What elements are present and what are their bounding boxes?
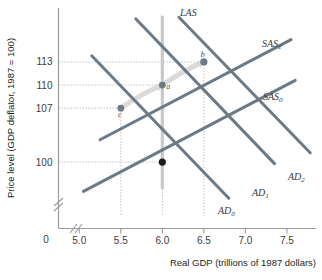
y-tick-label-113: 113: [37, 56, 53, 67]
x-tick-label-5.5: 5.5: [114, 235, 128, 246]
curve-label-subscript: 0: [231, 210, 235, 218]
x-tick-label-6.5: 6.5: [197, 235, 211, 246]
marker-initial-equilibrium: [159, 158, 166, 165]
curve-label-subscript: 2: [301, 176, 305, 184]
curve-SAS1: [100, 40, 291, 140]
y-tick-group: 100107110113: [36, 56, 53, 167]
x-tick-label-7.0: 7.0: [238, 235, 252, 246]
x-tick-label-7.5: 7.5: [280, 235, 294, 246]
y-tick-label-110: 110: [37, 80, 53, 91]
as-ad-chart-figure: 5.05.56.06.57.07.5 100107110113 cab LASS…: [0, 0, 322, 280]
curve-label-AD0: AD0: [217, 205, 235, 218]
curve-label-LAS: LAS: [179, 7, 197, 18]
curve-label-subscript: 1: [278, 43, 282, 51]
x-tick-label-5.0: 5.0: [72, 235, 86, 246]
curve-label-AD2: AD2: [287, 171, 305, 184]
marker-label-point-a: a: [166, 82, 170, 91]
x-axis-title: Real GDP (trillions of 1987 dollars): [170, 257, 316, 268]
curve-label-AD1: AD1: [251, 187, 269, 200]
arrow-c-to-a: [121, 84, 163, 108]
y-axis-title: Price level (GDP deflator, 1987 = 100): [5, 38, 16, 198]
curve-AD1: [136, 19, 275, 164]
x-tick-label-6.0: 6.0: [155, 235, 169, 246]
curve-label-subscript: 1: [265, 192, 269, 200]
chart-canvas: 5.05.56.06.57.07.5 100107110113 cab LASS…: [0, 0, 322, 280]
marker-label-point-c: c: [118, 110, 122, 119]
marker-label-point-b: b: [201, 50, 205, 59]
y-tick-label-107: 107: [36, 103, 53, 114]
marker-point-b: [200, 58, 207, 65]
x-tick-group: 5.05.56.06.57.07.5: [72, 229, 294, 247]
marker-point-a: [159, 82, 166, 89]
y-tick-label-100: 100: [36, 157, 53, 168]
curve-label-SAS0: SAS0: [263, 91, 283, 104]
curve-label-subscript: 0: [279, 96, 283, 104]
origin-label: 0: [43, 234, 49, 245]
